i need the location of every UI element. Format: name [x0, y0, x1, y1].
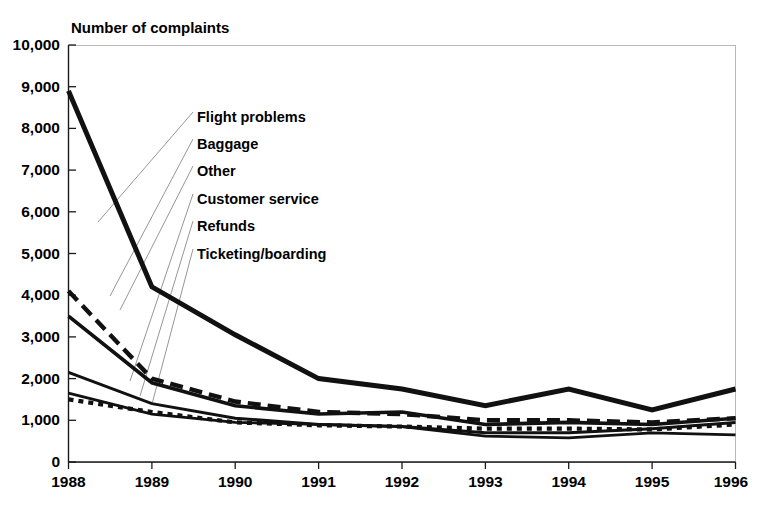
x-tick-label: 1995 — [635, 473, 670, 490]
y-tick-label: 6,000 — [21, 203, 60, 220]
x-tick-label: 1991 — [301, 473, 336, 490]
y-tick-label: 8,000 — [21, 119, 60, 136]
x-tick-label: 1993 — [468, 473, 503, 490]
legend-item-flight-problems: Flight problems — [197, 109, 306, 125]
y-tick-label: 2,000 — [21, 370, 60, 387]
chart-canvas: 0 1,000 2,000 3,000 4,000 5,000 6,000 7,… — [0, 0, 770, 505]
y-tick-label: 5,000 — [21, 245, 60, 262]
x-tick-labels: 1988 1989 1990 1991 1992 1993 1994 1995 … — [51, 473, 748, 490]
y-tick-label: 1,000 — [21, 411, 60, 428]
y-tick-label: 0 — [51, 453, 60, 470]
x-tick-label: 1996 — [714, 473, 749, 490]
y-tick-label: 10,000 — [13, 36, 60, 53]
x-tick-label: 1990 — [218, 473, 252, 490]
y-tick-label: 9,000 — [21, 78, 60, 95]
legend-item-refunds: Refunds — [197, 218, 255, 234]
x-tick-label: 1992 — [385, 473, 419, 490]
y-tick-label: 7,000 — [21, 161, 60, 178]
complaints-line-chart: 0 1,000 2,000 3,000 4,000 5,000 6,000 7,… — [0, 0, 770, 505]
x-tick-label: 1988 — [51, 473, 86, 490]
legend-item-baggage: Baggage — [197, 136, 258, 152]
y-tick-label: 4,000 — [21, 286, 60, 303]
legend-item-other: Other — [197, 163, 236, 179]
legend-item-ticketing-boarding: Ticketing/boarding — [197, 246, 326, 262]
y-tick-label: 3,000 — [21, 328, 60, 345]
legend-item-customer-service: Customer service — [197, 191, 319, 207]
chart-title: Number of complaints — [71, 19, 229, 36]
x-tick-label: 1989 — [135, 473, 170, 490]
x-tick-label: 1994 — [551, 473, 586, 490]
